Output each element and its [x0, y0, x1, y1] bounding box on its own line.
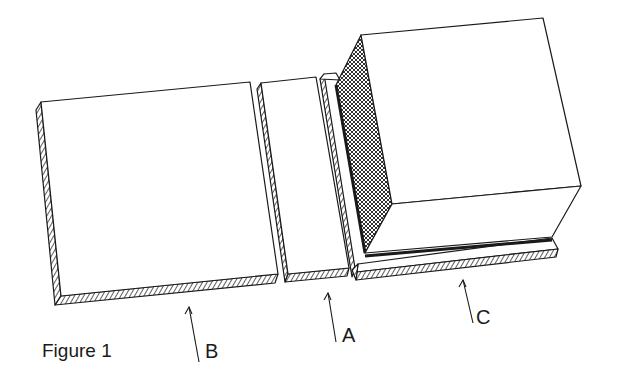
figure-caption: Figure 1: [42, 340, 112, 361]
cube-c: [336, 18, 581, 256]
arrow-a: [324, 293, 336, 342]
label-b: B: [205, 340, 218, 362]
arrow-c: [459, 280, 473, 323]
figure-1-diagram: Figure 1 B A C: [0, 0, 617, 377]
tile-b-top-face: [41, 82, 278, 296]
cube-top-face: [361, 18, 581, 204]
tile-b: [36, 82, 278, 305]
thin-slab-top: [320, 73, 340, 80]
arrow-b: [185, 307, 199, 362]
label-a: A: [342, 324, 356, 346]
label-c: C: [476, 306, 490, 328]
